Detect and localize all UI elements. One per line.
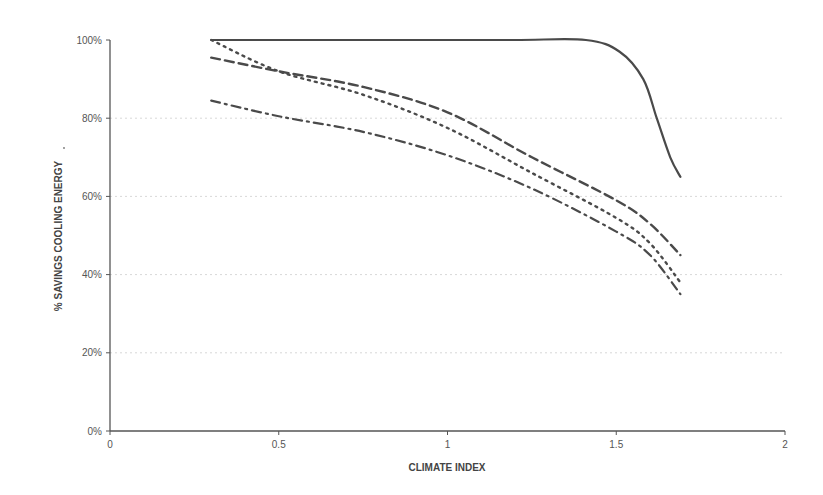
chart: 0%20%40%60%80%100% 00.511.52 CLIMATE IND… <box>0 0 823 495</box>
y-tick-label: 20% <box>82 347 102 358</box>
y-tick-label: 100% <box>76 35 102 46</box>
y-tick-label: 60% <box>82 191 102 202</box>
y-axis-title: % SAVINGS COOLING ENERGY <box>53 160 64 311</box>
series-group <box>211 39 680 294</box>
series-line-solid <box>211 39 680 177</box>
axes <box>110 40 785 431</box>
x-tick-label: 0 <box>107 439 113 450</box>
y-axis-title-dot <box>63 147 65 149</box>
x-tick-label: 1.5 <box>609 439 623 450</box>
y-tick-label: 80% <box>82 113 102 124</box>
y-tick-label: 40% <box>82 269 102 280</box>
x-ticks: 00.511.52 <box>107 431 788 450</box>
series-line-dotted <box>211 40 680 282</box>
x-axis-title: CLIMATE INDEX <box>408 462 485 473</box>
y-ticks: 0%20%40%60%80%100% <box>76 35 110 437</box>
series-line-long-dash <box>211 58 680 255</box>
x-tick-label: 0.5 <box>272 439 286 450</box>
y-tick-label: 0% <box>88 426 103 437</box>
gridlines <box>110 118 785 353</box>
x-tick-label: 1 <box>445 439 451 450</box>
x-tick-label: 2 <box>782 439 788 450</box>
